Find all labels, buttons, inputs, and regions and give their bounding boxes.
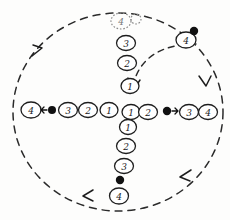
dot-left-marker [48,106,56,114]
dot-right-marker [163,107,171,115]
label-left-2: 2 [79,104,97,118]
label-left-3: 3 [59,104,77,118]
label-center-left-1: 1 [100,104,118,118]
label-up-3: 3 [117,37,135,51]
arrow-lower-right-icon [180,170,191,181]
label-right-4: 4 [199,106,217,120]
label-satellite-4: 4 [177,34,195,48]
label-up-1: 1 [121,80,139,94]
arrow-bottom-icon [83,190,93,201]
label-down-4: 4 [110,190,128,204]
label-up-4: 4 [112,15,130,29]
label-right-3: 3 [180,106,198,120]
label-center-right-1: 1 [122,106,140,120]
inner-dashed-curve [133,44,196,88]
label-down-1: 1 [119,121,137,135]
ellipse-up-companion-dotted [131,14,141,24]
label-down-3: 3 [115,160,133,174]
dot-left-arrow-icon [41,107,47,113]
dot-down-marker [116,176,124,184]
dot-right-arrow-icon [172,108,178,114]
label-left-4: 4 [22,104,40,118]
diagram-canvas: 1 2 3 4 1 1 2 2 3 4 3 4 1 2 3 4 4 [0,0,230,220]
arrow-right-icon [199,76,211,86]
label-center-right-2: 2 [139,106,157,120]
label-down-2: 2 [117,140,135,154]
arrow-upper-left-icon [32,45,42,56]
label-up-2: 2 [118,57,136,71]
